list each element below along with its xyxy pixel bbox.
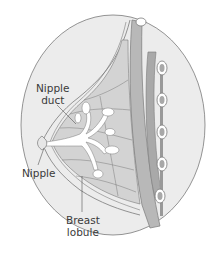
label-nipple-duct: Nipple duct <box>36 82 69 106</box>
label-nipple: Nipple <box>22 167 55 179</box>
label-breast-lobule: Breast lobule <box>66 214 100 238</box>
label-nipple-duct-line1: Nipple <box>36 82 69 94</box>
label-nipple-text: Nipple <box>22 167 55 179</box>
label-breast-lobule-line2: lobule <box>66 226 100 238</box>
label-breast-lobule-line1: Breast <box>66 214 100 226</box>
breast-anatomy-diagram <box>0 0 206 262</box>
label-nipple-duct-line2: duct <box>36 94 69 106</box>
